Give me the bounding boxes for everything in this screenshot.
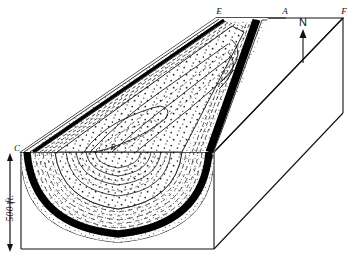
block-edge-right-bottom — [214, 113, 343, 249]
label-corner-a: A — [281, 6, 288, 16]
scale-bar-label: 500 ft. — [5, 194, 15, 221]
label-corner-e: E — [215, 6, 222, 16]
label-corner-c: C — [14, 143, 21, 153]
label-corner-f: F — [340, 6, 347, 16]
block-diagram-svg: 500 ft. N E A F C D B — [0, 0, 353, 260]
north-arrow-label: N — [299, 16, 307, 28]
figure-root: 500 ft. N E A F C D B — [0, 0, 353, 260]
label-point-b: B — [110, 142, 116, 152]
north-arrow — [300, 29, 307, 63]
label-corner-d: D — [206, 152, 214, 162]
top-surface-outcrop — [18, 14, 278, 156]
scale-arrow-bottom — [7, 244, 13, 252]
north-arrow-head — [300, 29, 307, 38]
front-cross-section — [18, 148, 218, 252]
scale-arrow-top — [7, 153, 13, 161]
